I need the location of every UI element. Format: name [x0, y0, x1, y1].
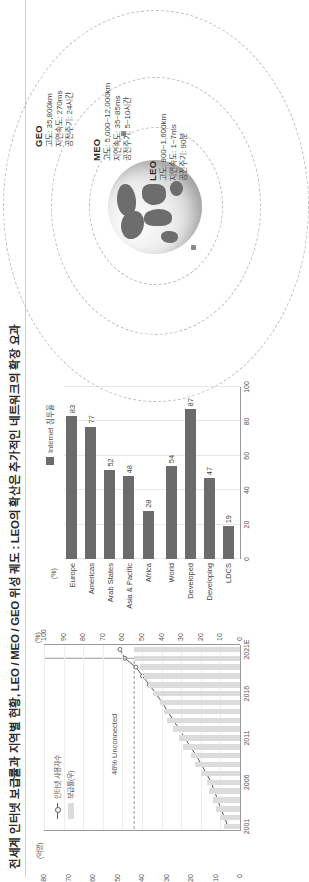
bar-chart-value-tick: 40 [243, 486, 250, 494]
line-chart-right-tick: 20 [197, 633, 204, 641]
line-chart-left-tick: 10 [212, 874, 219, 882]
line-chart-right-tick: 80 [79, 633, 86, 641]
line-chart-x-tick: 2016 [243, 686, 250, 702]
bar-chart-value-label: 54 [167, 455, 176, 463]
line-chart-penetration-bar [148, 682, 240, 687]
meo-line-3: 공전주기: 5~10시간 [123, 97, 132, 161]
bar-chart-bar [185, 409, 196, 559]
line-chart-penetration-bar [209, 788, 240, 793]
leo-line-1: 고도: 800~1,600km [159, 114, 168, 181]
line-chart-penetration-bar [179, 735, 240, 740]
line-chart-penetration-bar [207, 780, 240, 785]
bar-chart-value-tick: 0 [243, 557, 250, 561]
bar-chart-bar [123, 476, 134, 559]
line-chart-right-tick: 30 [177, 633, 184, 641]
legend-item-users: 인터넷 사용자수 [52, 755, 63, 819]
bar-chart-category-label: Asia & Pacific [124, 563, 133, 615]
line-chart-x-tick: 2006 [243, 775, 250, 791]
satellite-orbit-diagram: LEO 고도: 800~1,600km 지연속도: 1~7ms 공전주기: 90… [26, 0, 284, 357]
line-chart-right-tick: 70 [99, 633, 106, 641]
line-chart-penetration-bar [164, 709, 240, 714]
bar-chart-value-label: 83 [67, 405, 76, 413]
line-chart-x-tick: 2011 [243, 730, 250, 745]
line-chart-left-tick: 60 [89, 874, 96, 882]
line-chart-right-y-axis [44, 644, 240, 645]
line-chart-gridline [122, 645, 123, 831]
bar-chart-bar [66, 416, 77, 559]
bar-chart-value-label: 28 [144, 500, 153, 508]
bar-chart-bar [223, 526, 234, 559]
bar-chart-value-label: 19 [224, 515, 233, 523]
bar-chart-bar [104, 470, 115, 559]
meo-line-2: 지연속도: 35~85ms [113, 95, 122, 161]
line-chart-right-tick: 10 [216, 633, 223, 641]
meo-line-1: 고도: 5,000~12,000km [103, 83, 112, 161]
line-chart-left-tick: 30 [163, 874, 170, 882]
line-chart-right-tick: 100 [40, 629, 47, 641]
leo-line-2: 지연속도: 1~7ms [169, 124, 178, 181]
bar-chart-bar [204, 478, 215, 559]
geo-name: GEO [33, 125, 44, 147]
line-chart-right-tick: 60 [118, 633, 125, 641]
internet-users-line-chart: (억명) (%) 인터넷 사용자수 보급률(우) 46% Unconnected… [30, 621, 280, 871]
line-chart-penetration-bar [224, 824, 240, 829]
bar-chart-value-axis [240, 387, 241, 559]
line-chart-penetration-bar [216, 806, 240, 811]
line-chart-penetration-bar [173, 726, 240, 731]
bar-chart-category-label: Europe [67, 563, 76, 615]
legend-item-penetration: 보급률(우) [65, 755, 76, 819]
bar-chart-category-label: Developed [186, 563, 195, 615]
bar-swatch-icon [68, 803, 74, 819]
line-chart-penetration-bar [213, 797, 240, 802]
line-swatch-icon [55, 803, 61, 819]
bar-chart-value-label: 47 [205, 467, 214, 475]
bar-chart-category-label: Arab States [105, 563, 114, 615]
geo-line-2: 지연속도: 270ms [55, 91, 64, 147]
legend-label-users: 인터넷 사용자수 [52, 755, 63, 799]
line-chart-left-unit: (억명) [34, 842, 44, 859]
bar-chart-legend: Internet 침투율 [44, 404, 55, 465]
line-chart-left-tick: 50 [114, 874, 121, 882]
bar-chart-value-label: 52 [105, 458, 114, 466]
line-chart-penetration-bar [191, 753, 240, 758]
line-chart-penetration-bar [167, 718, 240, 723]
line-chart-x-tick: 2021E [243, 639, 250, 659]
line-chart-left-tick: 20 [187, 874, 194, 882]
line-chart-penetration-bar [134, 647, 240, 652]
geo-label: GEO 고도: 35,800km 지연속도: 270ms 공전주기: 24시간 [34, 91, 75, 147]
line-chart-left-tick: 70 [65, 874, 72, 882]
regional-penetration-bar-chart: (%) Internet 침투율 020406080100Europe83Ame… [30, 365, 280, 615]
line-chart-penetration-bar [140, 664, 240, 669]
bar-chart-value-label: 48 [124, 465, 133, 473]
bar-chart-category-label: LDCS [224, 563, 233, 615]
line-chart-right-tick: 0 [236, 637, 243, 641]
geo-line-1: 고도: 35,800km [45, 93, 54, 147]
meo-label: MEO 고도: 5,000~12,000km 지연속도: 35~85ms 공전주… [92, 83, 133, 161]
leo-label: LEO 고도: 800~1,600km 지연속도: 1~7ms 공전주기: 90… [148, 114, 189, 181]
line-chart-gridline [83, 645, 84, 831]
leo-name: LEO [147, 161, 158, 181]
poster-canvas: 전세계 인터넷 보급률과 지역별 현황, LEO / MEO / GEO 위성 … [0, 0, 288, 877]
line-chart-penetration-bar [220, 815, 240, 820]
bar-chart-category-label: Africa [144, 563, 153, 615]
bar-chart-value-tick: 60 [243, 452, 250, 460]
line-chart-gridline [103, 645, 104, 831]
line-chart-right-tick: 90 [60, 633, 67, 641]
line-chart-penetration-bar [144, 673, 240, 678]
line-chart-penetration-bar [160, 700, 240, 705]
line-chart-left-tick: 0 [236, 874, 243, 878]
line-chart-penetration-bar [154, 691, 240, 696]
line-chart-right-tick: 40 [158, 633, 165, 641]
unconnected-annotation: 46% Unconnected [110, 714, 119, 775]
page-title: 전세계 인터넷 보급률과 지역별 현황, LEO / MEO / GEO 위성 … [6, 324, 22, 869]
bar-chart-bar [143, 511, 154, 559]
line-chart-penetration-bar [183, 744, 240, 749]
line-chart-x-tick: 2001 [243, 819, 250, 835]
line-chart-left-y-axis [44, 830, 240, 831]
geo-line-3: 공전주기: 24시간 [65, 92, 74, 147]
line-chart-left-tick: 40 [138, 874, 145, 882]
bar-chart-bar [166, 466, 177, 559]
line-chart-data-point [118, 647, 122, 651]
bar-chart-value-label: 77 [86, 415, 95, 423]
bar-chart-value-label: 87 [186, 398, 195, 406]
